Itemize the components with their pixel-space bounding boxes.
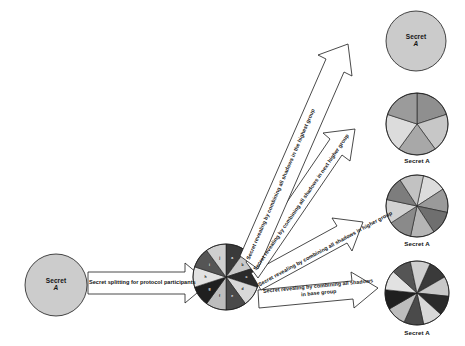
target-next-higher-group xyxy=(386,93,448,155)
target-highest-group xyxy=(386,11,446,71)
diagram-canvas: .stk{stroke:#1c1c1c;stroke-width:.8;} .a… xyxy=(0,0,465,346)
source-secret-circle xyxy=(25,254,87,316)
target-higher-group xyxy=(386,175,448,237)
diagram-svg: .stk{stroke:#1c1c1c;stroke-width:.8;} .a… xyxy=(0,0,465,346)
split-arrow-shape xyxy=(88,263,209,303)
target-base-group xyxy=(385,261,449,325)
